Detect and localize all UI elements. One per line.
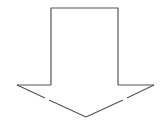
down-arrow-icon [0, 0, 168, 127]
arrow-fill [17, 8, 154, 117]
diagram-canvas [0, 0, 168, 127]
